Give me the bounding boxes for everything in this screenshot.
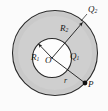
point-P-marker [83,81,88,86]
label-r-distance: r [64,77,67,85]
figure-canvas: R1 O R2 Q1 Q2 r P [0,0,108,111]
label-R1: R1 [31,53,39,63]
label-R2: R2 [60,24,68,34]
label-Q1: Q1 [70,52,79,62]
label-P-point: P [88,80,94,89]
spherical-shell-figure [0,0,108,111]
leader-line-Q2 [81,14,87,21]
label-Q2: Q2 [88,5,97,15]
label-O-center: O [45,56,52,65]
